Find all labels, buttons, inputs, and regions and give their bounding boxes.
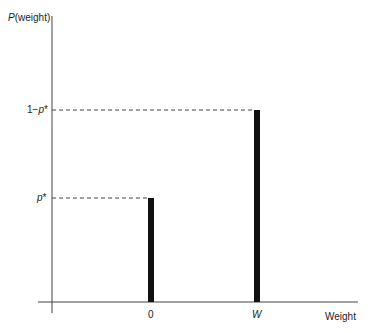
probability-chart [0, 0, 376, 333]
y-axis-label: P(weight) [8, 13, 50, 23]
y-tick-1-minus-p: 1−p* [27, 105, 48, 115]
x-tick-w: W [252, 310, 261, 320]
x-axis-label: Weight [325, 312, 356, 322]
bar-0 [148, 198, 154, 302]
x-tick-0: 0 [148, 310, 154, 320]
y-tick-p: p* [37, 193, 46, 203]
bar-w [254, 110, 260, 302]
